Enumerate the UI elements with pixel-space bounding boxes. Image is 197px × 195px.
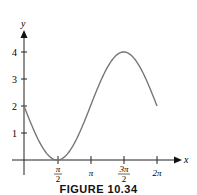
x-axis-label: x	[183, 154, 189, 165]
y-tick-label: 4	[12, 47, 17, 58]
y-tick-labels: 1 2 3 4	[12, 47, 17, 139]
x-tick-label-num: 3π	[118, 164, 129, 174]
x-axis-arrow-icon	[174, 157, 182, 164]
x-tick-label-num: π	[56, 164, 61, 174]
x-tick-label: π	[89, 168, 94, 178]
y-tick-label: 2	[12, 101, 17, 112]
figure-caption: FIGURE 10.34	[0, 183, 197, 195]
y-axis-arrow-icon	[21, 30, 28, 38]
chart: y x 1 2 3 4 π 2 π 3π 2 2π	[0, 0, 197, 195]
function-curve	[24, 52, 157, 160]
x-tick-labels: π 2 π 3π 2 2π	[54, 164, 162, 184]
y-axis-label: y	[20, 18, 26, 29]
y-tick-label: 3	[12, 74, 17, 85]
y-tick-label: 1	[12, 128, 17, 139]
x-tick-label: 2π	[152, 168, 162, 178]
